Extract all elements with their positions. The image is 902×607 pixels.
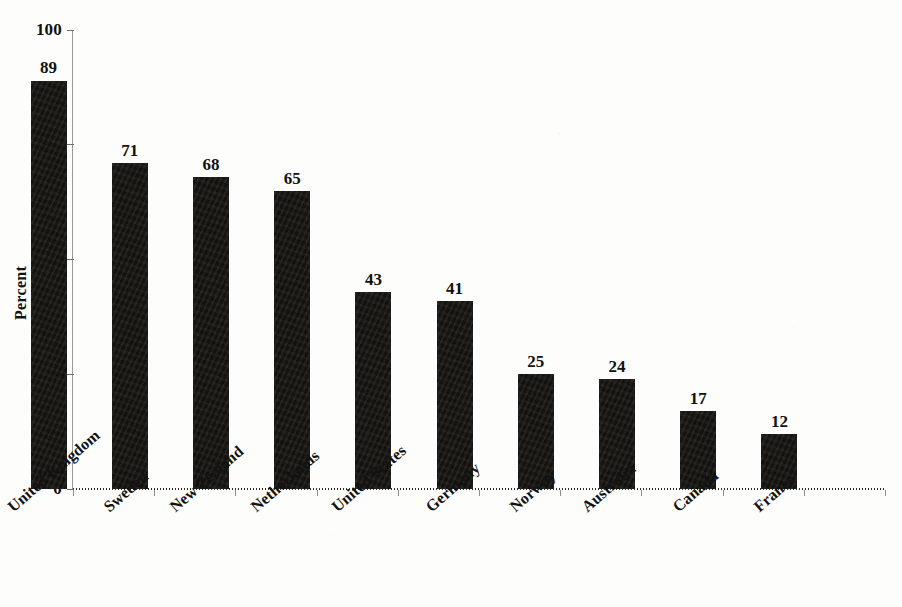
bar-value-label: 89 — [11, 59, 87, 76]
bar-value-label: 65 — [254, 170, 330, 187]
x-axis-tick — [560, 490, 561, 496]
bar-value-label: 25 — [498, 353, 574, 370]
bar-value-label: 68 — [173, 156, 249, 173]
bar-value-label: 41 — [417, 280, 493, 297]
plot-area: 89716865434125241712 — [73, 30, 885, 489]
bar-value-label: 17 — [660, 390, 736, 407]
bar-value-label: 12 — [741, 413, 817, 430]
x-axis-tick — [804, 490, 805, 496]
bar-value-label: 43 — [335, 271, 411, 288]
bar — [274, 191, 310, 489]
bar-value-label: 71 — [92, 142, 168, 159]
chart-page: Percent 0255075100 89716865434125241712 … — [0, 0, 902, 607]
bar — [31, 81, 67, 490]
x-axis-tick — [154, 490, 155, 496]
y-axis-tick-label-wrap: 100 — [0, 21, 62, 39]
x-axis-tick — [317, 490, 318, 496]
y-axis-tick-label: 100 — [36, 21, 62, 38]
bar — [437, 301, 473, 489]
x-axis-tick — [398, 490, 399, 496]
x-axis-tick — [641, 490, 642, 496]
x-axis-tick — [885, 490, 886, 496]
bar — [112, 163, 148, 489]
x-axis-tick — [73, 490, 74, 496]
bar — [193, 177, 229, 489]
x-axis-tick — [479, 490, 480, 496]
x-axis-tick — [723, 490, 724, 496]
x-axis-tick — [235, 490, 236, 496]
bar-value-label: 24 — [579, 358, 655, 375]
